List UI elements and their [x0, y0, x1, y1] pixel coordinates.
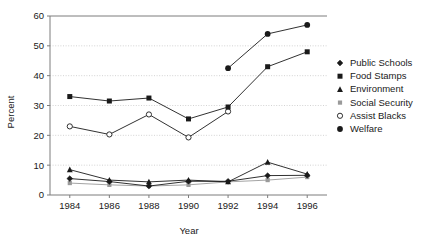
series-line: [70, 52, 307, 119]
data-point-1994: [265, 159, 271, 165]
data-point-1986: [107, 99, 112, 104]
data-point-1988: [146, 112, 151, 117]
x-tick-label-1984: 1984: [59, 200, 80, 211]
data-point-1992: [225, 65, 231, 71]
y-axis-tick-labels: 0102030405060: [33, 10, 44, 200]
x-tick-label-1992: 1992: [218, 200, 239, 211]
y-tick-label-0: 0: [39, 189, 44, 200]
legend-item-welfare[interactable]: Welfare: [337, 123, 382, 134]
x-tick-label-1994: 1994: [257, 200, 278, 211]
data-point-1996: [304, 22, 310, 28]
gridlines: [50, 46, 327, 165]
data-point-1994: [265, 64, 270, 69]
legend-label: Public Schools: [350, 57, 413, 68]
data-point-1996: [305, 49, 310, 54]
x-tick-label-1986: 1986: [99, 200, 120, 211]
chart-legend: Public SchoolsFood StampsEnvironmentSoci…: [337, 57, 413, 134]
legend-label: Social Security: [350, 97, 413, 108]
legend-label: Welfare: [350, 123, 383, 134]
series-welfare: [225, 22, 310, 71]
legend-marker-open-circle-icon: [337, 113, 342, 118]
y-tick-label-50: 50: [33, 40, 44, 51]
data-point-1990: [186, 116, 191, 121]
legend-item-assist-blacks[interactable]: Assist Blacks: [337, 110, 406, 121]
data-point-1984: [67, 124, 72, 129]
data-point-1986: [107, 132, 112, 137]
legend-item-social-security[interactable]: Social Security: [338, 97, 413, 108]
y-tick-label-20: 20: [33, 130, 44, 141]
data-point-1990: [186, 135, 191, 140]
x-axis-title: Year: [179, 225, 198, 236]
tick-marks: [47, 16, 307, 198]
data-point-1994: [265, 173, 271, 179]
data-point-1992: [226, 104, 231, 109]
chart-figure: 0102030405060 19841986198819901992199419…: [0, 0, 431, 245]
legend-item-public-schools[interactable]: Public Schools: [337, 57, 412, 68]
legend-label: Environment: [350, 83, 404, 94]
legend-marker-square-icon: [338, 74, 343, 79]
y-tick-label-30: 30: [33, 100, 44, 111]
x-axis-tick-labels: 1984198619881990199219941996: [59, 200, 318, 211]
line-chart: 0102030405060 19841986198819901992199419…: [0, 0, 431, 245]
legend-marker-filled-circle-icon: [337, 126, 343, 132]
y-tick-label-60: 60: [33, 10, 44, 21]
legend-item-environment[interactable]: Environment: [337, 83, 404, 94]
series-food-stamps: [67, 49, 309, 121]
x-tick-label-1988: 1988: [138, 200, 159, 211]
legend-label: Assist Blacks: [350, 110, 406, 121]
legend-item-food-stamps[interactable]: Food Stamps: [338, 70, 407, 81]
legend-marker-triangle-icon: [337, 86, 343, 92]
x-tick-label-1990: 1990: [178, 200, 199, 211]
legend-marker-small-square-gray-icon: [338, 101, 342, 105]
data-point-1994: [265, 31, 271, 37]
y-axis-title: Percent: [5, 95, 16, 128]
x-tick-label-1996: 1996: [297, 200, 318, 211]
data-point-1992: [225, 109, 230, 114]
y-tick-label-10: 10: [33, 160, 44, 171]
legend-label: Food Stamps: [350, 70, 407, 81]
data-point-1988: [146, 96, 151, 101]
legend-marker-diamond-icon: [337, 60, 343, 66]
data-point-1984: [67, 166, 73, 172]
y-tick-label-40: 40: [33, 70, 44, 81]
data-point-1984: [67, 94, 72, 99]
data-point-1984: [67, 176, 73, 182]
